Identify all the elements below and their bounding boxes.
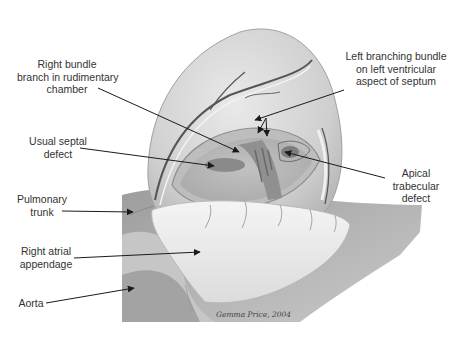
label-usual-septal-defect: Usual septal defect [23, 135, 93, 160]
usual-septal-defect-shape [205, 158, 245, 172]
heart-diagram: Right bundle branch in rudimentary chamb… [0, 0, 454, 340]
label-apical-trabecular-defect: Apical trabecular defect [386, 167, 446, 205]
label-pulmonary-trunk: Pulmonary trunk [14, 193, 70, 218]
apical-defect-shape [281, 146, 299, 158]
label-aorta: Aorta [14, 297, 48, 310]
label-right-bundle-branch: Right bundle branch in rudimentary chamb… [17, 58, 117, 96]
label-left-branching-bundle: Left branching bundle on left ventricula… [338, 50, 454, 88]
leader-aorta [46, 288, 134, 303]
artist-signature: Gemma Price, 2004 [216, 310, 291, 319]
label-right-atrial-appendage: Right atrial appendage [14, 245, 78, 270]
